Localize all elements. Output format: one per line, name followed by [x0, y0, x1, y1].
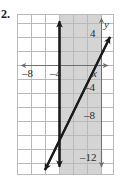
y-tick-label-neg4: –4 [84, 82, 95, 93]
x-tick-label-neg4: –4 [50, 68, 61, 79]
y-axis-name-label: y [104, 19, 109, 30]
problem-number-label: 2. [1, 8, 10, 20]
graph-figure: 2. [0, 0, 123, 188]
x-tick-label-neg8: –8 [22, 68, 33, 79]
x-axis-name-label: x [92, 68, 97, 79]
coordinate-plane-svg [18, 15, 113, 174]
y-tick-label-neg12: –12 [80, 152, 97, 163]
y-tick-label-4: 4 [90, 28, 96, 39]
y-tick-label-neg8: –8 [84, 110, 95, 121]
graph-plot-area: –8 –4 4 –4 –8 –12 y x [17, 14, 114, 175]
